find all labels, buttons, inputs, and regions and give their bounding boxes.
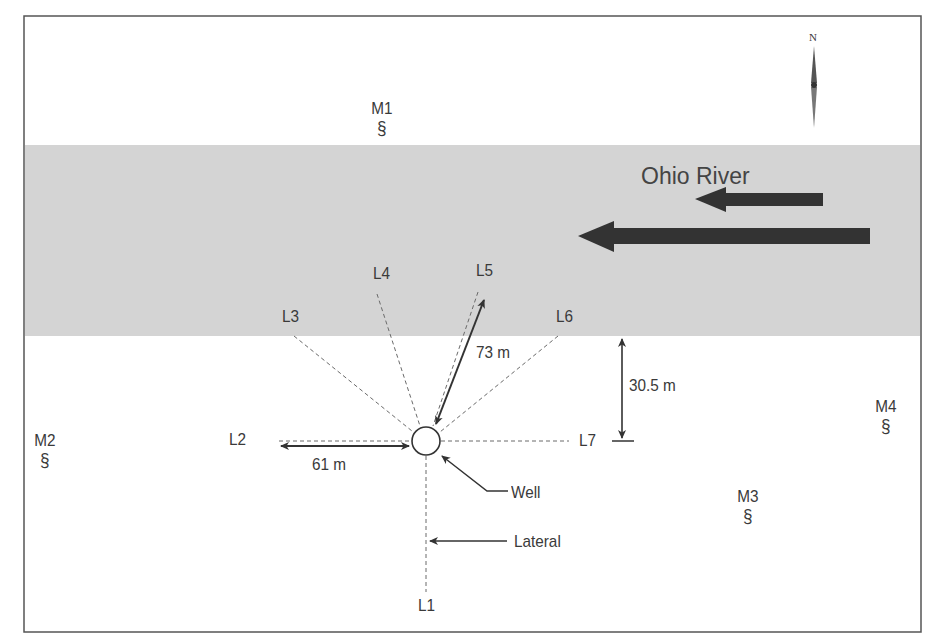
- lateral-l3-label: L3: [282, 308, 299, 325]
- lateral-pointer-label: Lateral: [514, 533, 561, 550]
- monitoring-well-m2: M2 §: [34, 432, 55, 469]
- collector-well-diagram: Ohio River N M1 § M2 § M3 § M4 § L1 L2 L…: [0, 0, 943, 639]
- well-circle: [412, 427, 440, 455]
- lateral-l5-label: L5: [476, 262, 493, 279]
- well-label: Well: [511, 484, 540, 501]
- lateral-l7-label: L7: [579, 432, 596, 449]
- dimension-30-5m-label: 30.5 m: [629, 377, 676, 394]
- dimension-61m-label: 61 m: [312, 456, 346, 473]
- monitoring-well-icon: §: [34, 450, 55, 469]
- monitoring-well-m4: M4 §: [875, 398, 896, 435]
- monitoring-well-icon: §: [875, 416, 896, 435]
- lateral-l2-label: L2: [229, 431, 246, 448]
- dimension-73m-label: 73 m: [476, 344, 510, 361]
- lateral-l6-label: L6: [556, 308, 573, 325]
- river-label: Ohio River: [641, 165, 750, 188]
- monitoring-well-icon: §: [371, 118, 392, 137]
- monitoring-well-m1: M1 §: [371, 100, 392, 137]
- monitoring-well-m3: M3 §: [737, 488, 758, 525]
- lateral-l4-label: L4: [373, 265, 390, 282]
- north-label: N: [809, 32, 817, 43]
- lateral-l1-label: L1: [418, 597, 435, 614]
- diagram-canvas: [0, 0, 943, 639]
- monitoring-well-icon: §: [737, 506, 758, 525]
